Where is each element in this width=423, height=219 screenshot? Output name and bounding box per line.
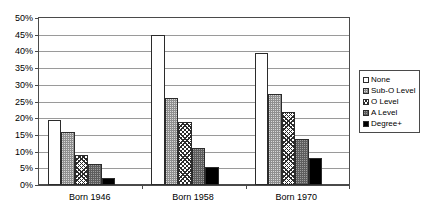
- x-axis-category-label: Born 1946: [38, 192, 141, 202]
- y-axis-tick: [35, 118, 39, 119]
- x-axis-tick: [142, 185, 143, 189]
- clipped-title-remnant: [4, 0, 214, 6]
- legend: NoneSub-O LevelO LevelA LevelDegree+: [359, 70, 420, 133]
- legend-swatch-icon: [363, 99, 369, 105]
- bar: [295, 139, 309, 185]
- legend-item-label: None: [371, 75, 390, 84]
- bar: [151, 35, 165, 185]
- legend-swatch-icon: [363, 88, 369, 94]
- y-axis-tick: [35, 85, 39, 86]
- gridline: [39, 35, 349, 36]
- y-axis-label: 40%: [0, 47, 33, 56]
- gridline: [39, 51, 349, 52]
- y-axis-label: 15%: [0, 130, 33, 139]
- bar: [61, 132, 75, 185]
- bar: [282, 112, 296, 185]
- y-axis-label: 25%: [0, 97, 33, 106]
- y-axis-tick: [35, 135, 39, 136]
- legend-item-label: A Level: [371, 108, 397, 117]
- plot-area: 0%5%10%15%20%25%30%35%40%45%50%: [39, 18, 349, 185]
- grouped-bar-chart: 0%5%10%15%20%25%30%35%40%45%50% NoneSub-…: [0, 0, 423, 219]
- legend-swatch-icon: [363, 110, 369, 116]
- x-axis-category-label: Born 1970: [245, 192, 348, 202]
- y-axis-label: 30%: [0, 80, 33, 89]
- legend-item[interactable]: O Level: [363, 96, 416, 107]
- gridline: [39, 135, 349, 136]
- bar: [75, 155, 89, 185]
- y-axis-tick: [35, 68, 39, 69]
- plot-frame: 0%5%10%15%20%25%30%35%40%45%50%: [38, 17, 350, 186]
- y-axis-label: 5%: [0, 164, 33, 173]
- y-axis-tick: [35, 35, 39, 36]
- legend-item[interactable]: Degree+: [363, 118, 416, 129]
- y-axis-tick: [35, 51, 39, 52]
- gridline: [39, 118, 349, 119]
- gridline: [39, 85, 349, 86]
- y-axis-label: 50%: [0, 14, 33, 23]
- bar: [48, 120, 62, 185]
- bar: [255, 53, 269, 185]
- y-axis-label: 35%: [0, 64, 33, 73]
- y-axis-tick: [35, 102, 39, 103]
- legend-swatch-icon: [363, 121, 369, 127]
- bar: [102, 178, 116, 185]
- y-axis-tick: [35, 152, 39, 153]
- legend-item-label: Sub-O Level: [371, 86, 415, 95]
- legend-item[interactable]: None: [363, 74, 416, 85]
- bar: [192, 148, 206, 185]
- bar: [268, 94, 282, 185]
- y-axis-label: 10%: [0, 147, 33, 156]
- bar: [205, 167, 219, 185]
- legend-item[interactable]: A Level: [363, 107, 416, 118]
- bar: [178, 122, 192, 185]
- x-axis-tick: [246, 185, 247, 189]
- legend-item[interactable]: Sub-O Level: [363, 85, 416, 96]
- y-axis-tick: [35, 185, 39, 186]
- x-axis-tick: [349, 185, 350, 189]
- legend-item-label: Degree+: [371, 119, 402, 128]
- y-axis-label: 0%: [0, 181, 33, 190]
- gridline: [39, 68, 349, 69]
- y-axis-tick: [35, 18, 39, 19]
- bar: [88, 164, 102, 185]
- y-axis-label: 20%: [0, 114, 33, 123]
- gridline: [39, 102, 349, 103]
- y-axis-tick: [35, 168, 39, 169]
- bar: [309, 158, 323, 185]
- legend-swatch-icon: [363, 77, 369, 83]
- x-axis-category-label: Born 1958: [141, 192, 244, 202]
- legend-item-label: O Level: [371, 97, 399, 106]
- bar: [165, 98, 179, 185]
- y-axis-label: 45%: [0, 30, 33, 39]
